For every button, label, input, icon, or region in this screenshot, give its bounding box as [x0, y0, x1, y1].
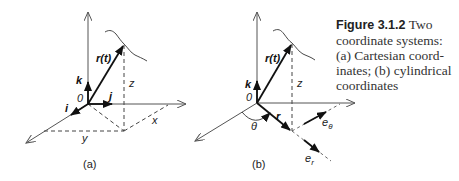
label-k: k — [245, 78, 252, 90]
caption-line-4: inates; (b) cylindrical — [336, 63, 458, 78]
label-e-theta: eθ — [322, 116, 333, 131]
panel-b-cylindrical: r(t) k 0 r θ z eθ er (b) — [195, 12, 355, 170]
label-theta: θ — [251, 120, 257, 132]
unit-vector-i-arrow — [71, 104, 88, 115]
caption-line-2: coordinate systems: — [336, 33, 458, 48]
label-i: i — [65, 102, 69, 114]
e-r-arrow — [304, 140, 319, 152]
panel-a-cartesian: r(t) k 0 j i z x y (a) — [26, 12, 186, 170]
label-y: y — [81, 132, 89, 144]
panel-a-sublabel: (a) — [83, 158, 96, 170]
label-k: k — [76, 74, 83, 86]
label-origin: 0 — [77, 92, 84, 104]
label-z: z — [296, 77, 303, 89]
label-x: x — [151, 114, 158, 126]
label-origin: 0 — [246, 91, 253, 103]
label-r-t: r(t) — [265, 52, 281, 64]
figure-caption: Figure 3.1.2 Two coordinate systems: (a)… — [336, 17, 458, 93]
label-z: z — [128, 77, 135, 89]
caption-line-5: coordinates — [336, 78, 458, 93]
label-e-r: er — [305, 152, 314, 167]
radial-vector-arrow — [257, 103, 290, 130]
label-r: r — [276, 110, 281, 122]
caption-line-3: (a) Cartesian coord- — [336, 48, 458, 63]
trajectory-curve — [105, 31, 147, 61]
figure-number: Figure 3.1.2 — [336, 18, 405, 32]
panel-b-sublabel: (b) — [252, 158, 265, 170]
label-j: j — [107, 90, 113, 102]
label-r-t: r(t) — [96, 52, 112, 64]
caption-line-1: Figure 3.1.2 Two — [336, 17, 458, 33]
x-axis — [195, 103, 257, 141]
x-projection-line — [124, 105, 168, 131]
origin-to-foot-line — [88, 104, 124, 131]
